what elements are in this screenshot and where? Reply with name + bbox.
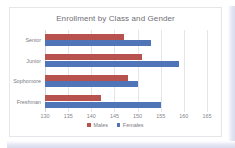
- legend-label-females: Females: [123, 122, 144, 128]
- page-edge-bottom: [7, 141, 235, 148]
- gridline-165: [207, 30, 208, 112]
- chart-legend[interactable]: MalesFemales: [10, 122, 221, 128]
- bar-freshman-males[interactable]: [45, 95, 101, 101]
- chart-title: Enrollment by Class and Gender: [10, 14, 221, 23]
- x-tick-label-155: 155: [156, 113, 165, 119]
- bar-sophomore-males[interactable]: [45, 75, 128, 81]
- category-label-junior: Junior: [26, 58, 41, 64]
- legend-swatch-males: [87, 123, 91, 127]
- bar-junior-females[interactable]: [45, 61, 179, 67]
- bar-row: Senior: [45, 30, 207, 51]
- bar-row: Freshman: [45, 92, 207, 113]
- legend-item-females[interactable]: Females: [117, 122, 144, 128]
- x-tick-label-145: 145: [110, 113, 119, 119]
- x-tick-label-140: 140: [87, 113, 96, 119]
- legend-item-males[interactable]: Males: [87, 122, 107, 128]
- legend-swatch-females: [117, 123, 121, 127]
- bar-sophomore-females[interactable]: [45, 81, 138, 87]
- bar-freshman-females[interactable]: [45, 102, 161, 108]
- bar-senior-males[interactable]: [45, 34, 124, 40]
- x-tick-label-130: 130: [41, 113, 50, 119]
- x-tick-label-165: 165: [203, 113, 212, 119]
- page-edge-right: [228, 6, 235, 148]
- plot-area: SeniorJuniorSophomoreFreshman: [45, 30, 207, 112]
- chart-container[interactable]: Enrollment by Class and Gender SeniorJun…: [9, 7, 222, 137]
- x-tick-label-135: 135: [64, 113, 73, 119]
- bar-senior-females[interactable]: [45, 40, 151, 46]
- x-tick-label-150: 150: [133, 113, 142, 119]
- bar-junior-males[interactable]: [45, 54, 142, 60]
- category-label-senior: Senior: [25, 37, 41, 43]
- x-tick-label-160: 160: [179, 113, 188, 119]
- category-label-freshman: Freshman: [17, 99, 41, 105]
- bar-row: Junior: [45, 51, 207, 72]
- bar-row: Sophomore: [45, 71, 207, 92]
- category-label-sophomore: Sophomore: [13, 78, 41, 84]
- page-background: Enrollment by Class and Gender SeniorJun…: [0, 0, 235, 148]
- legend-label-males: Males: [93, 122, 107, 128]
